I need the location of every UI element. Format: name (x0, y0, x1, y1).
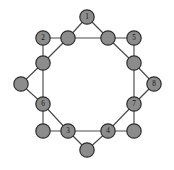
graph-node[interactable]: 6 (36, 97, 50, 111)
graph-node[interactable] (36, 124, 50, 138)
graph-node-label: 3 (66, 127, 70, 135)
graph-node[interactable]: 4 (101, 124, 115, 138)
graph-node[interactable]: 1 (80, 10, 94, 24)
graph-node[interactable] (127, 56, 141, 70)
graph-node-circle[interactable] (61, 31, 75, 45)
graph-node[interactable]: 2 (36, 31, 50, 45)
graph-node[interactable]: 8 (147, 77, 161, 91)
graph-node-label: 1 (85, 13, 89, 21)
graph-node-label: 7 (132, 100, 136, 108)
graph-node-circle[interactable] (101, 31, 115, 45)
graph-node-label: 8 (152, 80, 156, 88)
node-link-graph-figure: 12586734 (0, 0, 174, 170)
graph-canvas: 12586734 (0, 0, 174, 170)
graph-node-label: 4 (106, 127, 110, 135)
graph-node[interactable]: 5 (127, 31, 141, 45)
graph-node-label: 6 (41, 100, 45, 108)
graph-node-circle[interactable] (127, 56, 141, 70)
graph-node-circle[interactable] (80, 143, 94, 157)
graph-node-circle[interactable] (36, 124, 50, 138)
graph-node[interactable]: 3 (61, 124, 75, 138)
graph-node[interactable] (14, 77, 28, 91)
graph-node[interactable] (101, 31, 115, 45)
graph-node-circle[interactable] (36, 56, 50, 70)
graph-node[interactable] (61, 31, 75, 45)
graph-node[interactable] (80, 143, 94, 157)
graph-node-label: 2 (41, 34, 45, 42)
graph-node[interactable] (127, 124, 141, 138)
graph-node-circle[interactable] (14, 77, 28, 91)
graph-node-circle[interactable] (127, 124, 141, 138)
node-layer: 12586734 (14, 10, 161, 157)
graph-node-label: 5 (132, 34, 136, 42)
graph-node[interactable] (36, 56, 50, 70)
graph-node[interactable]: 7 (127, 97, 141, 111)
